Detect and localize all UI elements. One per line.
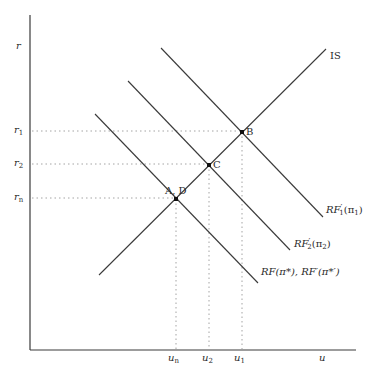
y-tick-r1: r1 bbox=[14, 125, 23, 137]
y-tick-r1-sub: 1 bbox=[19, 129, 23, 137]
point-ad-marker bbox=[174, 197, 178, 201]
point-b-label: B bbox=[246, 127, 253, 137]
x-tick-un: un bbox=[168, 353, 179, 365]
x-tick-u2-sub: 2 bbox=[208, 357, 212, 365]
rf-curve-label: RF(π*), RF′(π*′) bbox=[261, 267, 340, 277]
x-axis-label: u bbox=[319, 353, 325, 363]
y-tick-rn: rn bbox=[14, 192, 23, 204]
x-tick-u1: u1 bbox=[234, 353, 245, 365]
x-tick-un-sub: n bbox=[174, 357, 179, 365]
rf1-label-close: ) bbox=[359, 204, 363, 215]
y-axis-label: r bbox=[16, 41, 21, 51]
rf1-curve-label: RF′1(π1) bbox=[326, 203, 363, 217]
y-tick-rn-sub: n bbox=[19, 196, 24, 204]
rf2-label-arg: (π bbox=[312, 238, 322, 249]
rf2-curve-label: RF′2(π2) bbox=[294, 237, 331, 251]
point-ad-label: A, D bbox=[165, 186, 187, 196]
is-curve-label: IS bbox=[330, 51, 341, 61]
y-tick-r2: r2 bbox=[14, 158, 23, 170]
x-tick-u1-sub: 1 bbox=[240, 357, 244, 365]
rf2-label-close: ) bbox=[327, 238, 331, 249]
diagram-canvas bbox=[0, 0, 378, 372]
y-tick-r2-sub: 2 bbox=[19, 162, 23, 170]
point-c-label: C bbox=[213, 160, 221, 170]
x-tick-u2: u2 bbox=[202, 353, 213, 365]
point-c-marker bbox=[207, 163, 211, 167]
rf1-label-arg: (π bbox=[344, 204, 354, 215]
point-b-marker bbox=[240, 130, 244, 134]
